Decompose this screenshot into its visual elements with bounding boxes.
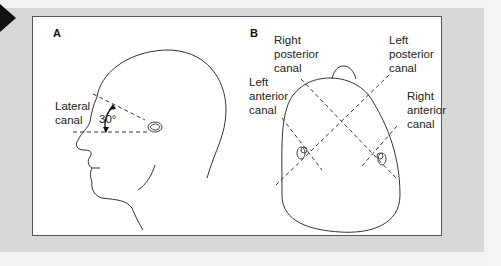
panel-a-label: A — [53, 27, 61, 39]
head-profile — [76, 50, 226, 230]
left-posterior-canal-label: Left posterior canal — [389, 33, 434, 75]
canal-axis-lines — [276, 75, 397, 185]
head-top — [282, 66, 400, 232]
lateral-canal-label: Lateral canal — [55, 99, 90, 127]
panel-b-label: B — [250, 27, 258, 39]
ear-canal-a-icon — [148, 122, 162, 132]
ear-canal-right-icon — [377, 153, 386, 165]
right-anterior-canal-label: Right anterior canal — [407, 89, 446, 131]
angle-label: 30° — [99, 112, 116, 126]
right-posterior-canal-label: Right posterior canal — [274, 33, 319, 75]
left-anterior-canal-label: Left anterior canal — [249, 75, 288, 117]
